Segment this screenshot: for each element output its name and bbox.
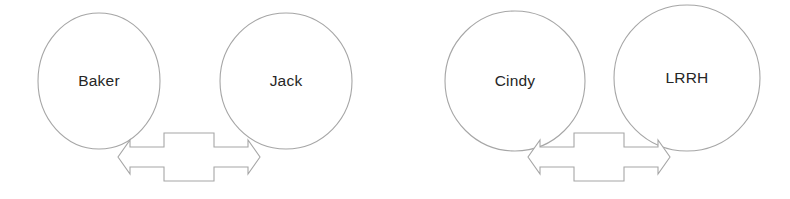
- node-jack-label: Jack: [270, 72, 303, 89]
- node-jack[interactable]: Jack: [220, 13, 352, 149]
- group-left: Baker Jack: [38, 13, 352, 181]
- diagram-svg: Baker Jack Cindy LRRH: [0, 0, 790, 199]
- node-lrrh[interactable]: LRRH: [614, 5, 760, 151]
- node-cindy[interactable]: Cindy: [445, 11, 585, 151]
- node-cindy-label: Cindy: [495, 72, 536, 89]
- node-baker[interactable]: Baker: [38, 13, 160, 149]
- node-baker-label: Baker: [78, 72, 120, 89]
- diagram-canvas: Baker Jack Cindy LRRH: [0, 0, 790, 199]
- node-lrrh-label: LRRH: [665, 69, 708, 86]
- group-right: Cindy LRRH: [445, 5, 760, 181]
- connector-baker-jack-double-arrow[interactable]: [118, 133, 260, 181]
